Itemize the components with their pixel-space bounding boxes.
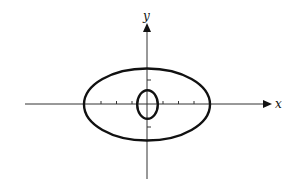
y-axis-label: y: [142, 9, 150, 23]
y-axis-arrow-icon: [143, 23, 151, 32]
x-axis-arrow-icon: [263, 100, 272, 108]
diagram-canvas: x y: [0, 0, 294, 188]
x-axis-label: x: [275, 97, 282, 111]
